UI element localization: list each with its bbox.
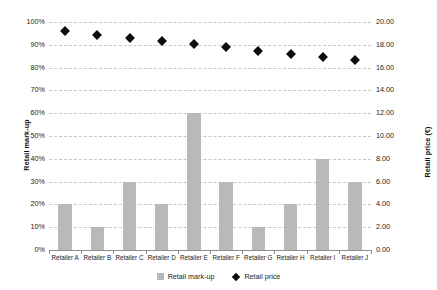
- y-axis-left-tick-label: 30%: [31, 178, 45, 185]
- y-axis-left-tick-label: 90%: [31, 41, 45, 48]
- category-label-retailer-a: Retailer A: [51, 255, 78, 262]
- gridline: [49, 136, 371, 137]
- y-axis-left-tick-label: 10%: [31, 224, 45, 231]
- category-label-retailer-c: Retailer C: [116, 255, 144, 262]
- category-label-retailer-b: Retailer B: [83, 255, 111, 262]
- y-axis-left-tick-label: 0%: [35, 246, 45, 253]
- category-tick: [339, 250, 340, 254]
- category-tick: [371, 250, 372, 254]
- gridline: [49, 45, 371, 46]
- marker-retailer-g: [253, 46, 263, 56]
- y-axis-right-tick-label: 6.00: [376, 178, 390, 185]
- y-axis-right-tick-label: 16.00: [376, 64, 394, 71]
- marker-retailer-c: [125, 33, 135, 43]
- category-label-retailer-f: Retailer F: [212, 255, 239, 262]
- category-tick: [49, 250, 50, 254]
- bar-retailer-a: [58, 204, 72, 250]
- diamond-marker-icon: [232, 272, 240, 280]
- category-label-retailer-j: Retailer J: [342, 255, 369, 262]
- bar-retailer-d: [155, 204, 169, 250]
- category-tick: [113, 250, 114, 254]
- marker-retailer-h: [286, 49, 296, 59]
- legend-label: Retail price: [244, 272, 280, 281]
- y-axis-right-title: Retail price (€): [423, 126, 432, 177]
- marker-retailer-i: [318, 52, 328, 62]
- y-axis-right-tick-label: 12.00: [376, 110, 394, 117]
- square-swatch-icon: [157, 273, 164, 280]
- y-axis-right-tick-label: 20.00: [376, 18, 394, 25]
- category-tick: [178, 250, 179, 254]
- y-axis-left-tick-label: 60%: [31, 110, 45, 117]
- marker-retailer-b: [92, 30, 102, 40]
- y-axis-left-tick-label: 40%: [31, 155, 45, 162]
- bar-retailer-h: [284, 204, 298, 250]
- category-label-retailer-i: Retailer I: [310, 255, 335, 262]
- category-tick: [210, 250, 211, 254]
- legend-label: Retail mark-up: [168, 272, 215, 281]
- category-tick: [274, 250, 275, 254]
- gridline: [49, 90, 371, 91]
- y-axis-right-tick-label: 2.00: [376, 224, 390, 231]
- gridline: [49, 68, 371, 69]
- retail-markup-price-chart: Retail mark-up Retail price (€) 0%10%20%…: [0, 0, 437, 290]
- y-axis-left-tick-label: 50%: [31, 132, 45, 139]
- category-tick: [242, 250, 243, 254]
- category-tick: [81, 250, 82, 254]
- marker-retailer-f: [221, 42, 231, 52]
- gridline: [49, 22, 371, 23]
- y-axis-right-ticks: 0.002.004.006.008.0010.0012.0014.0016.00…: [376, 22, 416, 250]
- category-label-retailer-e: Retailer E: [180, 255, 208, 262]
- category-tick: [307, 250, 308, 254]
- bar-retailer-g: [252, 227, 266, 250]
- bar-retailer-b: [91, 227, 105, 250]
- category-tick: [146, 250, 147, 254]
- y-axis-left-tick-label: 70%: [31, 87, 45, 94]
- legend-item-retail-mark-up[interactable]: Retail mark-up: [157, 272, 215, 281]
- bar-retailer-f: [219, 182, 233, 250]
- category-label-retailer-h: Retailer H: [277, 255, 305, 262]
- y-axis-right-tick-label: 8.00: [376, 155, 390, 162]
- chart-legend: Retail mark-upRetail price: [0, 272, 437, 281]
- y-axis-right-tick-label: 14.00: [376, 87, 394, 94]
- marker-retailer-a: [60, 26, 70, 36]
- y-axis-left-tick-label: 20%: [31, 201, 45, 208]
- y-axis-right-tick-label: 10.00: [376, 132, 394, 139]
- marker-retailer-e: [189, 39, 199, 49]
- y-axis-right-tick-label: 18.00: [376, 41, 394, 48]
- bar-retailer-j: [348, 182, 362, 250]
- category-label-retailer-g: Retailer G: [244, 255, 272, 262]
- legend-item-retail-price[interactable]: Retail price: [232, 272, 280, 281]
- bar-retailer-c: [123, 182, 137, 250]
- y-axis-right-tick-label: 4.00: [376, 201, 390, 208]
- y-axis-right-tick-label: 0.00: [376, 246, 390, 253]
- y-axis-left-tick-label: 80%: [31, 64, 45, 71]
- bar-retailer-i: [316, 159, 330, 250]
- gridline: [49, 113, 371, 114]
- y-axis-left-ticks: 0%10%20%30%40%50%60%70%80%90%100%: [0, 22, 45, 250]
- bar-retailer-e: [187, 113, 201, 250]
- y-axis-left-tick-label: 100%: [27, 18, 45, 25]
- marker-retailer-j: [350, 55, 360, 65]
- plot-area: [49, 22, 371, 250]
- category-label-retailer-d: Retailer D: [148, 255, 176, 262]
